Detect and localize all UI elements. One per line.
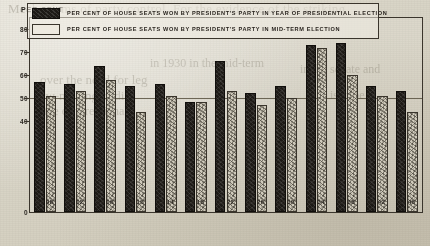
bar-presidential: [396, 91, 406, 212]
legend-label: PER CENT OF HOUSE SEATS WON BY PRESIDENT…: [67, 26, 340, 32]
x-axis-tick-label: 12 14: [157, 199, 174, 205]
legend-swatch-midterm-icon: [32, 24, 60, 35]
x-axis-tick-label: 32 34: [308, 199, 325, 205]
bar-midterm: [46, 96, 56, 212]
legend-item: PER CENT OF HOUSE SEATS WON BY PRESIDENT…: [32, 6, 387, 20]
bar-presidential: [245, 93, 255, 212]
bar-midterm: [76, 91, 86, 212]
bar-series-container: [30, 18, 422, 212]
bar-presidential: [155, 84, 165, 212]
bar-midterm: [317, 48, 327, 212]
bar-presidential: [275, 86, 285, 212]
bar-presidential: [34, 82, 44, 212]
x-axis-tick-label: 96 98: [37, 199, 54, 205]
bar-presidential: [94, 66, 104, 212]
x-axis-tick-label: 24 26: [248, 199, 265, 205]
x-axis-tick-label: 28 30: [278, 199, 295, 205]
legend-swatch-presidential-icon: [32, 8, 60, 19]
bar-presidential: [64, 84, 74, 212]
chart-legend: PER CENT OF HOUSE SEATS WON BY PRESIDENT…: [27, 3, 379, 39]
bar-midterm: [136, 112, 146, 212]
bar-midterm: [166, 96, 176, 212]
bar-presidential: [215, 61, 225, 212]
x-axis-tick-label: 36 38: [338, 199, 355, 205]
bar-midterm: [407, 112, 417, 212]
bar-presidential: [366, 86, 376, 212]
bar-presidential: [336, 43, 346, 212]
x-axis-tick-label: 00 02: [67, 199, 84, 205]
bar-midterm: [347, 75, 357, 212]
chart-plot-area: 40506070800: [29, 17, 423, 213]
bar-midterm: [377, 96, 387, 212]
bar-midterm: [287, 98, 297, 212]
legend-item: PER CENT OF HOUSE SEATS WON BY PRESIDENT…: [32, 22, 340, 36]
bar-presidential: [185, 102, 195, 212]
y-axis-tick-label: 0: [12, 209, 28, 216]
bar-midterm: [227, 91, 237, 212]
x-axis-tick-label: 16 18: [188, 199, 205, 205]
x-axis-tick-label: 08 10: [127, 199, 144, 205]
x-axis-tick-label: 04 06: [97, 199, 114, 205]
bar-midterm: [196, 102, 206, 212]
bar-presidential: [306, 45, 316, 212]
x-axis-tick-label: 40 42: [369, 199, 386, 205]
bar-presidential: [125, 86, 135, 212]
x-axis-tick-label: 20 22: [218, 199, 235, 205]
bar-midterm: [257, 105, 267, 212]
legend-label: PER CENT OF HOUSE SEATS WON BY PRESIDENT…: [67, 10, 387, 16]
x-axis-tick-label: 44 46: [399, 199, 416, 205]
bar-midterm: [106, 80, 116, 212]
